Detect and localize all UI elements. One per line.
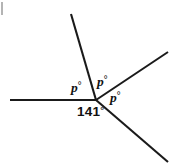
angle-rays-svg [0, 0, 174, 165]
angle-label-p-middle-variable: p [97, 74, 104, 89]
angle-label-141: 141° [77, 105, 104, 119]
lower-right-ray [96, 100, 168, 162]
angle-label-p-right-variable: p [110, 90, 117, 105]
angle-label-p-left: p° [71, 81, 82, 95]
degree-symbol-icon: ° [100, 104, 104, 115]
angle-label-p-right: p° [110, 91, 121, 105]
angle-label-p-middle: p° [97, 75, 108, 89]
degree-symbol-icon: ° [78, 81, 82, 91]
degree-symbol-icon: ° [104, 75, 108, 85]
angle-label-141-value: 141 [77, 104, 100, 119]
degree-symbol-icon: ° [117, 91, 121, 101]
angle-label-p-left-variable: p [71, 80, 78, 95]
angle-diagram-figure: p° p° p° 141° [0, 0, 174, 165]
